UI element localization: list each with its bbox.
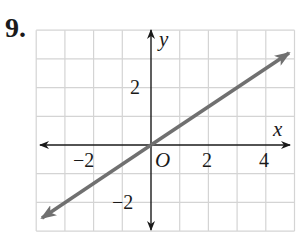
y-tick-2: 2 [130, 76, 140, 98]
y-tick-neg2: −2 [112, 191, 133, 213]
x-tick-neg2: −2 [73, 149, 94, 171]
plotted-line [42, 145, 151, 218]
grid [36, 30, 294, 231]
x-axis-label: x [272, 117, 283, 141]
x-tick-4: 4 [259, 149, 269, 171]
y-axis-label: y [157, 27, 169, 51]
x-tick-2: 2 [202, 149, 212, 171]
origin-label: O [155, 148, 170, 172]
plotted-line [151, 53, 289, 145]
coordinate-plane: y x O −2 2 4 2 −2 [0, 0, 301, 250]
